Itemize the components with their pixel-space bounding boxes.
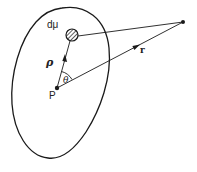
body-outline (12, 7, 110, 158)
r-arrowhead-icon (132, 45, 140, 51)
rho-label: ρ (45, 56, 54, 69)
mass-element-diagram: dμ ρ θ P r (0, 0, 197, 172)
mass-element-icon (66, 29, 78, 41)
r-label: r (140, 45, 145, 55)
mass-to-field-point-line (78, 22, 183, 36)
mass-element-label: dμ (47, 19, 59, 30)
theta-label: θ (63, 75, 69, 85)
origin-point-label: P (49, 90, 56, 101)
field-point-dot (181, 20, 185, 24)
